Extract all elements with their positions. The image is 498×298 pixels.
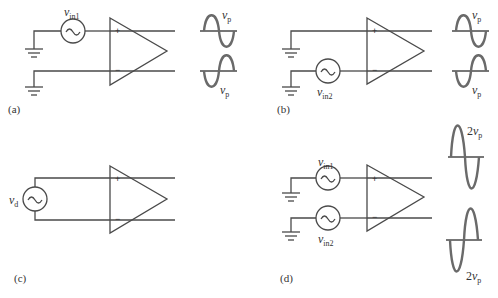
source-label-vin2: vin2 [317, 86, 333, 101]
noninverting-sign: + [115, 27, 120, 36]
waveform-label: 2vp [467, 125, 482, 140]
waveform-label: vp [472, 9, 481, 24]
panel-d-circuit [282, 126, 484, 272]
source-label-vd: vd [9, 194, 18, 209]
panel-label-a: (a) [8, 104, 20, 115]
waveform-label: vp [220, 84, 229, 99]
panel-c-circuit [23, 166, 175, 233]
waveform-label: 2vp [466, 270, 481, 285]
ac-source-icon [316, 59, 340, 83]
ground-icon [282, 87, 300, 95]
source-label-vin2: vin2 [318, 233, 334, 248]
ground-icon [282, 193, 300, 201]
ground-icon [282, 49, 300, 57]
opamp-input-modes-figure: vin1 + − vp vp (a) + − vin2 vp vp (b) vd… [0, 0, 498, 298]
ac-source-icon [316, 206, 340, 230]
inverting-sign: − [372, 213, 377, 222]
inverting-sign: − [372, 66, 377, 75]
panel-a-circuit [25, 15, 237, 95]
waveform-label: vp [472, 84, 481, 99]
ac-source-icon [23, 187, 47, 211]
noninverting-sign: + [372, 175, 377, 184]
panel-label-d: (d) [280, 273, 293, 284]
noninverting-sign: + [372, 27, 377, 36]
waveform-label: vp [222, 9, 231, 24]
inverting-sign: − [115, 66, 120, 75]
ac-source-icon [61, 19, 85, 43]
panel-b-circuit [282, 15, 489, 95]
ground-icon [282, 232, 300, 240]
circuit-diagram [0, 0, 498, 298]
noninverting-sign: + [115, 175, 120, 184]
source-label-vin1: vin1 [318, 156, 334, 171]
panel-label-c: (c) [14, 273, 26, 284]
panel-label-b: (b) [277, 104, 290, 115]
inverting-sign: − [115, 215, 120, 224]
ground-icon [25, 49, 43, 57]
source-label-vin1: vin1 [64, 6, 80, 21]
ground-icon [25, 87, 43, 95]
